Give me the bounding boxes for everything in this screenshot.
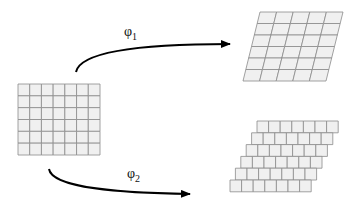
grid-cell bbox=[299, 156, 311, 168]
grid-cell bbox=[265, 180, 277, 192]
grid-cell bbox=[252, 156, 264, 168]
grid-cell bbox=[279, 58, 298, 70]
target-shifted-rows-grid bbox=[230, 121, 338, 192]
grid-cell bbox=[30, 84, 42, 96]
grid-cell bbox=[268, 35, 287, 47]
mapping-diagram bbox=[0, 0, 357, 207]
grid-cell bbox=[53, 143, 65, 155]
grid-cell bbox=[271, 24, 290, 36]
grid-cell bbox=[65, 96, 77, 108]
grid-cell bbox=[288, 180, 300, 192]
grid-cell bbox=[88, 84, 100, 96]
grid-cell bbox=[18, 96, 30, 108]
grid-cell bbox=[77, 96, 89, 108]
grid-cell bbox=[316, 145, 328, 157]
grid-cell bbox=[257, 121, 269, 133]
grid-cell bbox=[41, 108, 53, 120]
grid-cell bbox=[246, 58, 265, 70]
grid-cell bbox=[304, 24, 323, 36]
grid-cell bbox=[88, 108, 100, 120]
grid-cell bbox=[18, 131, 30, 143]
grid-cell bbox=[30, 108, 42, 120]
grid-cell bbox=[315, 47, 334, 59]
grid-cell bbox=[88, 96, 100, 108]
grid-cell bbox=[241, 156, 253, 168]
grid-cell bbox=[321, 24, 340, 36]
grid-cell bbox=[18, 120, 30, 132]
grid-cell bbox=[301, 35, 320, 47]
grid-cell bbox=[270, 168, 282, 180]
grid-cell bbox=[288, 24, 307, 36]
grid-cell bbox=[305, 168, 317, 180]
grid-cell bbox=[41, 131, 53, 143]
grid-cell bbox=[280, 121, 292, 133]
grid-cell bbox=[41, 143, 53, 155]
grid-cell bbox=[262, 58, 281, 70]
grid-cell bbox=[41, 96, 53, 108]
grid-cell bbox=[315, 121, 327, 133]
grid-cell bbox=[77, 143, 89, 155]
grid-cell bbox=[235, 168, 247, 180]
grid-cell bbox=[298, 133, 310, 145]
grid-cell bbox=[309, 70, 328, 82]
grid-cell bbox=[252, 133, 264, 145]
grid-cell bbox=[230, 180, 242, 192]
grid-cell bbox=[298, 47, 317, 59]
grid-cell bbox=[265, 47, 284, 59]
grid-cell bbox=[65, 108, 77, 120]
grid-cell bbox=[243, 70, 262, 82]
grid-cell bbox=[300, 180, 312, 192]
label-phi2: φ2 bbox=[127, 166, 140, 184]
grid-cell bbox=[77, 131, 89, 143]
grid-cell bbox=[53, 108, 65, 120]
grid-cell bbox=[53, 131, 65, 143]
grid-cell bbox=[264, 156, 276, 168]
grid-cell bbox=[281, 145, 293, 157]
grid-cell bbox=[65, 84, 77, 96]
grid-cell bbox=[259, 168, 271, 180]
grid-cell bbox=[269, 121, 281, 133]
grid-cell bbox=[257, 12, 276, 24]
grid-cell bbox=[310, 133, 322, 145]
grid-cell bbox=[247, 168, 259, 180]
grid-cell bbox=[88, 131, 100, 143]
grid-cell bbox=[282, 47, 301, 59]
grid-cell bbox=[286, 133, 298, 145]
grid-cell bbox=[276, 180, 288, 192]
grid-cell bbox=[53, 96, 65, 108]
grid-cell bbox=[304, 145, 316, 157]
grid-cell bbox=[303, 121, 315, 133]
grid-cell bbox=[321, 133, 333, 145]
grid-cell bbox=[269, 145, 281, 157]
grid-cell bbox=[327, 121, 339, 133]
grid-cell bbox=[30, 131, 42, 143]
grid-cell bbox=[312, 58, 331, 70]
grid-cell bbox=[293, 145, 305, 157]
grid-cell bbox=[293, 70, 312, 82]
grid-cell bbox=[18, 84, 30, 96]
grid-cell bbox=[318, 35, 337, 47]
grid-cell bbox=[30, 143, 42, 155]
grid-cell bbox=[65, 143, 77, 155]
grid-cell bbox=[310, 156, 322, 168]
grid-cell bbox=[254, 24, 273, 36]
grid-cell bbox=[88, 143, 100, 155]
grid-cell bbox=[30, 120, 42, 132]
grid-cell bbox=[258, 145, 270, 157]
grid-cell bbox=[53, 120, 65, 132]
grid-cell bbox=[77, 120, 89, 132]
grid-cell bbox=[53, 84, 65, 96]
grid-cell bbox=[287, 156, 299, 168]
grid-cell bbox=[77, 108, 89, 120]
grid-cell bbox=[18, 108, 30, 120]
grid-cell bbox=[77, 84, 89, 96]
grid-cell bbox=[88, 120, 100, 132]
grid-cell bbox=[30, 96, 42, 108]
grid-cell bbox=[41, 120, 53, 132]
grid-cell bbox=[293, 168, 305, 180]
grid-cell bbox=[290, 12, 309, 24]
grid-cell bbox=[282, 168, 294, 180]
grid-cell bbox=[263, 133, 275, 145]
grid-cell bbox=[246, 145, 258, 157]
grid-cell bbox=[249, 47, 268, 59]
